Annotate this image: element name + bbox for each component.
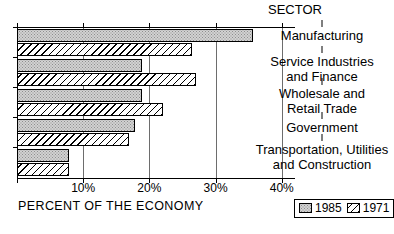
x-axis-title: PERCENT OF THE ECONOMY bbox=[18, 199, 203, 213]
y-tick-3 bbox=[13, 117, 18, 118]
legend-item-1985: 1985 bbox=[299, 201, 342, 215]
bar-1985-row-4 bbox=[17, 149, 69, 162]
legend: 1985 1971 bbox=[294, 199, 394, 218]
legend-label-1971: 1971 bbox=[363, 201, 390, 215]
category-label-2-line-0: Wholesale and bbox=[279, 87, 365, 102]
y-tick-1 bbox=[13, 57, 18, 58]
label-connector-1 bbox=[322, 46, 323, 53]
bar-1985-row-3 bbox=[17, 119, 135, 132]
bar-1971-row-4 bbox=[17, 163, 69, 176]
gridline-30% bbox=[216, 28, 217, 178]
x-tick-label-10%: 10% bbox=[71, 181, 95, 195]
legend-swatch-1985-icon bbox=[299, 203, 312, 213]
x-tick-label-30%: 30% bbox=[204, 181, 228, 195]
bar-1971-row-2 bbox=[17, 103, 163, 116]
tick-top-10% bbox=[83, 23, 84, 27]
legend-item-1971: 1971 bbox=[347, 201, 390, 215]
y-tick-2 bbox=[13, 87, 18, 88]
top-axis-spine bbox=[17, 27, 295, 28]
category-label-4-line-1: and Construction bbox=[273, 158, 371, 173]
category-label-4-line-0: Transportation, Utilities bbox=[256, 143, 388, 158]
legend-label-1985: 1985 bbox=[315, 201, 342, 215]
category-label-1-line-0: Service Industries bbox=[270, 55, 373, 70]
label-connector-3 bbox=[322, 112, 323, 119]
y-tick-0 bbox=[13, 27, 18, 28]
category-label-0-line-0: Manufacturing bbox=[281, 29, 363, 44]
sector-heading: SECTOR bbox=[268, 2, 382, 17]
bar-1985-row-1 bbox=[17, 59, 142, 72]
y-tick-4 bbox=[13, 147, 18, 148]
x-tick-label-40%: 40% bbox=[270, 181, 294, 195]
label-connector-4 bbox=[322, 134, 323, 141]
label-connector-2 bbox=[322, 78, 323, 85]
bar-1971-row-3 bbox=[17, 133, 129, 146]
label-connector-0 bbox=[322, 20, 323, 27]
x-tick-label-20%: 20% bbox=[137, 181, 161, 195]
tick-top-20% bbox=[149, 23, 150, 27]
sector-label-column: SECTOR ManufacturingService Industriesan… bbox=[262, 2, 382, 17]
bar-1985-row-0 bbox=[17, 29, 253, 42]
legend-swatch-1971-icon bbox=[347, 203, 360, 213]
bar-1971-row-0 bbox=[17, 43, 192, 56]
bar-1985-row-2 bbox=[17, 89, 142, 102]
tick-top-30% bbox=[216, 23, 217, 27]
x-axis-spine bbox=[17, 178, 295, 179]
plot-area bbox=[17, 27, 295, 179]
tick-top-40% bbox=[282, 23, 283, 27]
bar-1971-row-1 bbox=[17, 73, 196, 86]
